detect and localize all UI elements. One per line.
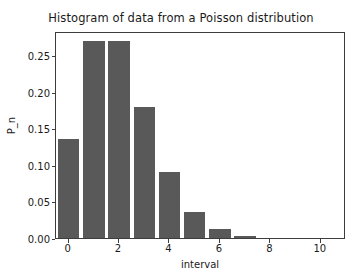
- x-tick-mark: [168, 239, 169, 243]
- histogram-figure: Histogram of data from a Poisson distrib…: [0, 0, 362, 280]
- x-tick-mark: [118, 239, 119, 243]
- x-tick-mark: [219, 239, 220, 243]
- x-axis-label: interval: [55, 259, 345, 270]
- x-tick-label: 0: [64, 243, 70, 254]
- x-tick-mark: [320, 239, 321, 243]
- y-axis-label: P_n: [6, 106, 17, 146]
- y-tick-label: 0.00: [28, 234, 50, 245]
- y-tick-label: 0.20: [28, 87, 50, 98]
- histogram-bar: [134, 107, 155, 238]
- histogram-bar: [209, 229, 230, 238]
- x-tick-label: 2: [115, 243, 121, 254]
- x-tick-label: 4: [165, 243, 171, 254]
- y-tick-mark: [52, 239, 56, 240]
- plot-area: [55, 32, 345, 239]
- y-tick-label: 0.15: [28, 124, 50, 135]
- histogram-bar: [108, 41, 129, 238]
- y-tick-label: 0.05: [28, 197, 50, 208]
- histogram-bar: [159, 172, 180, 238]
- histogram-bar: [184, 212, 205, 238]
- histogram-bar: [234, 236, 255, 238]
- x-tick-label: 8: [266, 243, 272, 254]
- histogram-bar: [58, 139, 79, 238]
- x-tick-label: 10: [313, 243, 326, 254]
- chart-title: Histogram of data from a Poisson distrib…: [0, 11, 362, 25]
- y-tick-label: 0.10: [28, 160, 50, 171]
- y-tick-label: 0.25: [28, 51, 50, 62]
- x-tick-label: 6: [216, 243, 222, 254]
- bars-layer: [56, 33, 344, 238]
- histogram-bar: [83, 41, 104, 238]
- x-tick-mark: [269, 239, 270, 243]
- x-tick-mark: [68, 239, 69, 243]
